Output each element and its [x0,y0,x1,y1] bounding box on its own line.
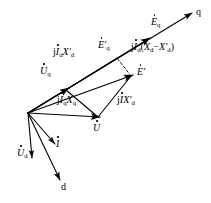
I-label: I [56,139,59,149]
q-axis-label: q [196,7,201,17]
jIXd-prime-label: jIX′d [117,95,135,106]
jIdXd-minus-Xd-prime-label: jId(Xd−X′d) [131,42,174,53]
U-vector [28,113,100,117]
I-vector [28,113,55,144]
jIdXd-prime-vector [66,58,117,90]
jIdXd-prime-label: jIdX′d [53,47,74,58]
Eq-prime-label: E′q [98,40,110,51]
E-prime-label: E′ [137,67,145,77]
Eq-label: Eq [151,17,161,28]
Ud-label: Ud [17,148,28,159]
U-label: U [93,123,100,133]
phasor-diagram: q d Eq E′q E′ Uq U Ud I jIdX′d jIqXq jIX… [0,0,211,203]
d-axis-label: d [61,182,66,192]
Uq-label: Uq [40,66,51,77]
jIqXq-label: jIqXq [57,95,76,106]
phasor-vector-canvas [0,0,211,203]
E-prime-projection-dashed [117,58,131,76]
